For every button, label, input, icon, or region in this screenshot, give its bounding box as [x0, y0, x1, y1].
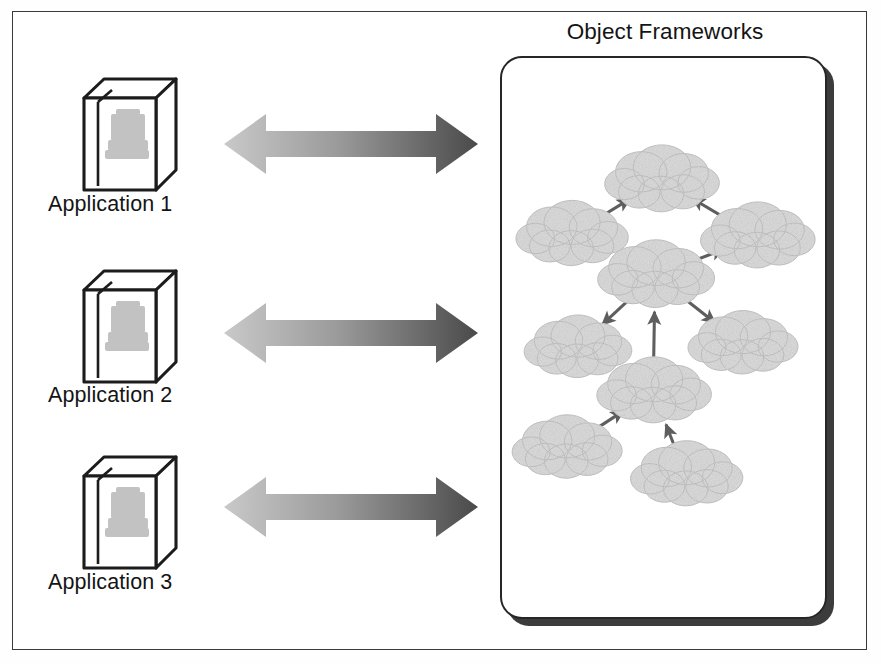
application-1-label: Application 1 — [48, 192, 278, 217]
double-headed-arrow-icon — [222, 294, 480, 372]
application-2-label: Application 2 — [48, 383, 278, 408]
application-1-box-icon — [78, 74, 182, 196]
diagram-canvas: Application 1Application 2Application 3 … — [0, 0, 881, 664]
object-frameworks-panel — [500, 56, 827, 619]
panel-title: Object Frameworks — [495, 19, 835, 45]
software-box-icon — [78, 452, 182, 574]
application-2-box-icon — [78, 266, 182, 388]
framework-graph — [502, 58, 825, 617]
double-headed-arrow-icon — [222, 468, 480, 546]
connector-2 — [222, 294, 480, 372]
computer-glyph-icon — [105, 109, 149, 159]
software-box-icon — [78, 74, 182, 196]
software-box-icon — [78, 266, 182, 388]
double-headed-arrow-icon — [222, 105, 480, 183]
framework-node-5-cloud-icon — [524, 315, 632, 378]
application-3-label: Application 3 — [48, 570, 278, 595]
framework-node-6-cloud-icon — [688, 311, 798, 374]
computer-glyph-icon — [105, 301, 149, 351]
computer-glyph-icon — [105, 487, 149, 537]
connector-3 — [222, 468, 480, 546]
framework-node-3-cloud-icon — [701, 202, 816, 268]
connector-1 — [222, 105, 480, 183]
framework-node-1-cloud-icon — [605, 145, 720, 212]
framework-node-9-cloud-icon — [631, 441, 743, 506]
application-3-box-icon — [78, 452, 182, 574]
framework-edge-8-arrow-icon — [666, 425, 674, 446]
framework-edge-6-arrow-icon — [654, 312, 655, 360]
framework-nodes — [512, 145, 815, 506]
